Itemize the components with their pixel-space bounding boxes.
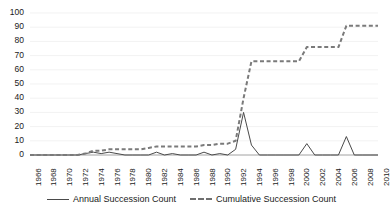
- y-tick-label: 40: [0, 93, 24, 102]
- chart-legend: Annual Succession Count Cumulative Succe…: [0, 194, 383, 204]
- x-tick-label: 2006: [350, 168, 359, 186]
- legend-item-cumulative[interactable]: Cumulative Succession Count: [190, 194, 336, 204]
- x-tick-label: 1974: [97, 168, 106, 186]
- x-tick-label: 1976: [113, 168, 122, 186]
- x-tick-label: 1986: [192, 168, 201, 186]
- y-tick-label: 0: [0, 150, 24, 159]
- data-series-layer: [30, 26, 378, 155]
- y-tick-label: 100: [0, 8, 24, 17]
- legend-item-annual[interactable]: Annual Succession Count: [47, 194, 176, 204]
- x-tick-label: 1992: [239, 168, 248, 186]
- x-tick-label: 1994: [255, 168, 264, 186]
- legend-label-annual: Annual Succession Count: [73, 194, 176, 204]
- y-tick-label: 90: [0, 22, 24, 31]
- legend-dashed-line-icon: [190, 198, 212, 200]
- x-tick-label: 2004: [334, 168, 343, 186]
- x-tick-label: 2010: [382, 168, 391, 186]
- x-tick-label: 1968: [49, 168, 58, 186]
- y-tick-label: 10: [0, 136, 24, 145]
- x-tick-label: 1998: [287, 168, 296, 186]
- y-tick-label: 20: [0, 122, 24, 131]
- x-tick-label: 1988: [208, 168, 217, 186]
- y-tick-label: 50: [0, 79, 24, 88]
- x-tick-label: 2000: [302, 168, 311, 186]
- legend-label-cumulative: Cumulative Succession Count: [216, 194, 336, 204]
- x-tick-label: 2008: [366, 168, 375, 186]
- legend-solid-line-icon: [47, 199, 69, 200]
- x-tick-label: 1970: [65, 168, 74, 186]
- y-tick-label: 80: [0, 36, 24, 45]
- x-tick-label: 1972: [81, 168, 90, 186]
- x-tick-label: 1996: [271, 168, 280, 186]
- x-tick-label: 1990: [223, 168, 232, 186]
- gridlines: [30, 13, 378, 155]
- x-tick-label: 1978: [128, 168, 137, 186]
- y-tick-label: 30: [0, 107, 24, 116]
- x-tick-label: 1984: [176, 168, 185, 186]
- x-tick-label: 1966: [34, 168, 43, 186]
- x-tick-label: 2002: [318, 168, 327, 186]
- y-tick-label: 70: [0, 51, 24, 60]
- x-tick-label: 1980: [144, 168, 153, 186]
- x-tick-label: 1982: [160, 168, 169, 186]
- y-tick-label: 60: [0, 65, 24, 74]
